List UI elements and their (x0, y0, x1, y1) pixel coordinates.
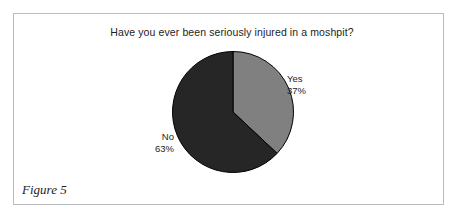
chart-title: Have you ever been seriously injured in … (0, 26, 464, 39)
figure-page: Have you ever been seriously injured in … (0, 0, 464, 214)
pie-chart (171, 50, 295, 174)
pie-label-yes: Yes 37% (287, 73, 306, 97)
figure-caption: Figure 5 (22, 182, 67, 198)
pie-label-no-name: No (162, 131, 174, 142)
pie-label-no-value: 63% (134, 143, 174, 155)
pie-label-yes-value: 37% (287, 85, 306, 97)
pie-label-no: No 63% (134, 131, 174, 155)
pie-label-yes-name: Yes (287, 73, 303, 84)
pie-chart-svg (171, 50, 295, 174)
